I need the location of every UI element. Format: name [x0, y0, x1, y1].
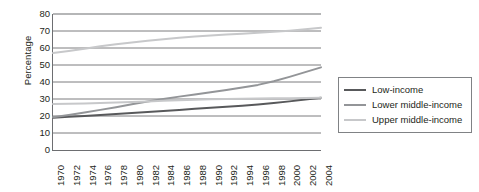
x-tick-label: 1972	[72, 165, 82, 186]
x-tick-label: 1990	[214, 165, 224, 186]
y-tick-label: 20	[28, 111, 50, 121]
chart-figure: Percentage 80706050403020100 19701972197…	[0, 0, 479, 192]
x-tick-label: 1970	[56, 165, 66, 186]
x-tick-label: 1994	[245, 165, 255, 186]
legend-label: Lower middle-income	[372, 99, 462, 110]
y-tick-label: 40	[28, 77, 50, 87]
chart-legend: Low-incomeLower middle-incomeUpper middl…	[338, 77, 472, 133]
legend-swatch-icon	[344, 119, 366, 121]
x-tick-label: 1992	[229, 165, 239, 186]
x-tick-label: 1986	[182, 165, 192, 186]
legend-swatch-icon	[344, 89, 366, 91]
x-tick-label: 1998	[277, 165, 287, 186]
y-tick-label: 0	[28, 145, 50, 155]
x-tick-label: 1988	[198, 165, 208, 186]
plot-area	[52, 14, 321, 151]
series-line	[53, 28, 321, 53]
y-tick-label: 50	[28, 60, 50, 70]
legend-item[interactable]: Upper middle-income	[344, 112, 466, 127]
x-tick-label: 2000	[292, 165, 302, 186]
x-tick-label: 1978	[119, 165, 129, 186]
x-tick-label: 2004	[324, 165, 334, 186]
x-tick-label: 1982	[151, 165, 161, 186]
y-tick-label: 60	[28, 43, 50, 53]
x-tick-label: 1974	[88, 165, 98, 186]
y-tick-label: 80	[28, 9, 50, 19]
legend-label: Upper middle-income	[372, 114, 462, 125]
y-tick-label: 70	[28, 26, 50, 36]
x-tick-label: 2002	[308, 165, 318, 186]
x-tick-label: 1996	[261, 165, 271, 186]
x-tick-label: 1976	[103, 165, 113, 186]
legend-swatch-icon	[344, 104, 366, 106]
x-tick-label: 1984	[166, 165, 176, 186]
x-axis-tick-labels: 1970197219741976197819801982198419861988…	[52, 152, 320, 192]
x-tick-label: 1980	[135, 165, 145, 186]
y-tick-label: 30	[28, 94, 50, 104]
legend-item[interactable]: Low-income	[344, 82, 466, 97]
y-tick-label: 10	[28, 128, 50, 138]
series-lines	[53, 14, 321, 150]
legend-label: Low-income	[372, 84, 423, 95]
legend-item[interactable]: Lower middle-income	[344, 97, 466, 112]
y-axis-tick-labels: 80706050403020100	[26, 0, 50, 192]
